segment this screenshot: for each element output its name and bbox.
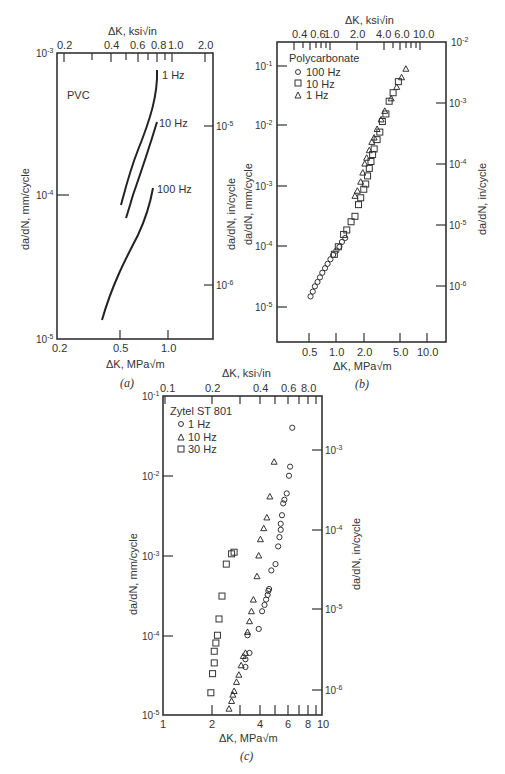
legend: Polycarbonate 100 Hz 10 Hz 1 Hz — [289, 52, 359, 101]
svg-text:4: 4 — [257, 718, 263, 730]
svg-text:10-5: 10-5 — [36, 333, 53, 345]
figure-canvas: ΔK, ksi√in 0.2 0.4 0.6 0.8 1.0 2.0 10-3 … — [0, 0, 505, 774]
left-axis-ticks: 10-1 10-2 10-3 10-4 10-5 — [142, 390, 173, 721]
svg-text:8: 8 — [305, 718, 311, 730]
svg-text:10-5: 10-5 — [325, 603, 342, 615]
svg-text:0.6: 0.6 — [130, 39, 145, 51]
circle-marker-icon — [286, 473, 291, 478]
svg-text:10-5: 10-5 — [255, 301, 272, 313]
left-axis-ticks: 10-3 10-4 10-5 — [36, 47, 69, 345]
svg-text:10-5: 10-5 — [449, 219, 466, 231]
right-axis-ticks: 10-2 10-3 10-4 10-5 10-6 — [436, 36, 468, 292]
svg-text:6: 6 — [285, 718, 291, 730]
svg-text:4.0 6.0: 4.0 6.0 — [376, 28, 410, 40]
data-points — [208, 425, 295, 711]
circle-marker-icon — [259, 609, 264, 614]
svg-text:0.5: 0.5 — [302, 346, 317, 358]
triangle-marker-icon — [236, 672, 242, 678]
svg-text:1: 1 — [160, 718, 166, 730]
square-marker-icon — [214, 632, 220, 638]
legend-item-10hz: 10 Hz — [188, 431, 217, 443]
square-marker-icon — [208, 690, 214, 696]
svg-text:0.5: 0.5 — [113, 342, 128, 354]
top-axis-title: ΔK, ksi√in — [222, 367, 271, 379]
triangle-marker-icon — [364, 155, 370, 161]
svg-text:10-4: 10-4 — [325, 524, 342, 536]
right-axis-title: da/dN, in/cycle — [225, 178, 237, 250]
svg-text:10-6: 10-6 — [449, 280, 466, 292]
svg-text:10-1: 10-1 — [255, 60, 272, 72]
triangle-marker-icon — [354, 188, 360, 194]
circle-marker-icon — [287, 464, 292, 469]
circle-marker-icon — [269, 568, 274, 573]
circle-marker-icon — [296, 70, 301, 75]
svg-text:10-6: 10-6 — [325, 684, 342, 696]
circle-marker-icon — [278, 527, 283, 532]
triangle-marker-icon — [257, 536, 263, 542]
material-label: PVC — [67, 89, 90, 101]
svg-text:5.0: 5.0 — [393, 346, 408, 358]
triangle-marker-icon — [267, 493, 273, 499]
svg-text:0.1: 0.1 — [160, 382, 175, 394]
triangle-marker-icon — [248, 608, 254, 614]
svg-text:0.6: 0.6 — [281, 382, 296, 394]
square-marker-icon — [295, 80, 301, 86]
triangle-marker-icon — [256, 553, 262, 559]
triangle-marker-icon — [403, 66, 409, 72]
bottom-axis-ticks: 1 2 4 6 8 10 — [160, 705, 329, 730]
circle-marker-icon — [284, 491, 289, 496]
square-marker-icon — [219, 593, 225, 599]
svg-text:10-6: 10-6 — [216, 279, 233, 291]
panel-caption: (c) — [240, 749, 253, 763]
triangle-marker-icon — [360, 170, 366, 176]
circle-marker-icon — [290, 425, 295, 430]
legend-item-100hz: 100 Hz — [306, 66, 341, 78]
svg-text:10-3: 10-3 — [325, 444, 342, 456]
svg-text:0.2: 0.2 — [52, 342, 67, 354]
bottom-axis-title: ΔK, MPa√m — [106, 358, 165, 370]
square-marker-icon — [213, 640, 219, 646]
panel-caption: (a) — [120, 376, 134, 390]
curve-label-10hz: 10 Hz — [159, 117, 188, 129]
svg-text:10-2: 10-2 — [142, 470, 159, 482]
svg-text:0.4 0.6: 0.4 0.6 — [292, 28, 326, 40]
triangle-marker-icon — [247, 618, 253, 624]
svg-text:10-3: 10-3 — [36, 47, 53, 59]
triangle-marker-icon — [250, 597, 256, 603]
curve-100hz — [102, 188, 153, 320]
legend-item-30hz: 30 Hz — [188, 443, 217, 455]
left-axis-title: da/dN, mm/cycle — [127, 533, 139, 615]
legend: Zytel ST 801 1 Hz 10 Hz 30 Hz — [170, 405, 232, 455]
right-axis-title: da/dN, in/cycle — [350, 518, 362, 590]
triangle-marker-icon — [229, 698, 235, 704]
panel-caption: (b) — [355, 377, 369, 391]
circle-marker-icon — [279, 513, 284, 518]
square-marker-icon — [216, 616, 222, 622]
svg-text:0.4: 0.4 — [253, 382, 268, 394]
svg-text:10-4: 10-4 — [255, 240, 272, 252]
triangle-marker-icon — [245, 629, 251, 635]
top-axis-ticks: 0.1 0.2 0.4 0.6 8.0 — [160, 382, 316, 404]
svg-text:8.0: 8.0 — [301, 382, 316, 394]
svg-text:10-4: 10-4 — [36, 189, 53, 201]
svg-text:0.4: 0.4 — [104, 39, 119, 51]
top-axis-ticks: 0.4 0.6 1.0 2.0 4.0 6.0 10.0 — [292, 28, 434, 50]
svg-text:10-3: 10-3 — [449, 97, 466, 109]
svg-text:1.0: 1.0 — [161, 342, 176, 354]
circle-marker-icon — [245, 633, 250, 638]
svg-text:0.2: 0.2 — [57, 39, 72, 51]
triangle-marker-icon — [178, 434, 184, 440]
square-marker-icon — [383, 111, 389, 117]
legend-title: Polycarbonate — [289, 52, 359, 64]
square-marker-icon — [210, 671, 216, 677]
square-marker-icon — [223, 561, 229, 567]
left-axis-title: da/dN, mm/cycle — [19, 168, 31, 250]
right-axis-ticks: 10-3 10-4 10-5 10-6 — [312, 444, 342, 696]
svg-text:2.0: 2.0 — [357, 346, 372, 358]
svg-text:1.0: 1.0 — [324, 28, 339, 40]
circle-marker-icon — [273, 562, 278, 567]
svg-text:2.0: 2.0 — [350, 28, 365, 40]
triangle-marker-icon — [362, 161, 368, 167]
circle-marker-icon — [262, 602, 267, 607]
curve-label-1hz: 1 Hz — [162, 69, 185, 81]
